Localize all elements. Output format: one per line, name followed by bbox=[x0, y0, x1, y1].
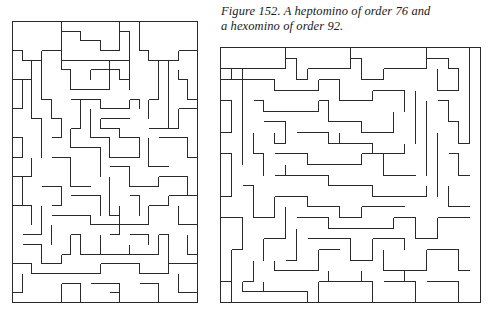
figure-frame bbox=[13, 22, 198, 303]
polyomino-figures bbox=[0, 0, 493, 314]
figure-frame bbox=[221, 48, 481, 303]
heptomino-tiling-figure bbox=[13, 22, 198, 303]
hexomino-tiling-figure bbox=[221, 48, 481, 303]
